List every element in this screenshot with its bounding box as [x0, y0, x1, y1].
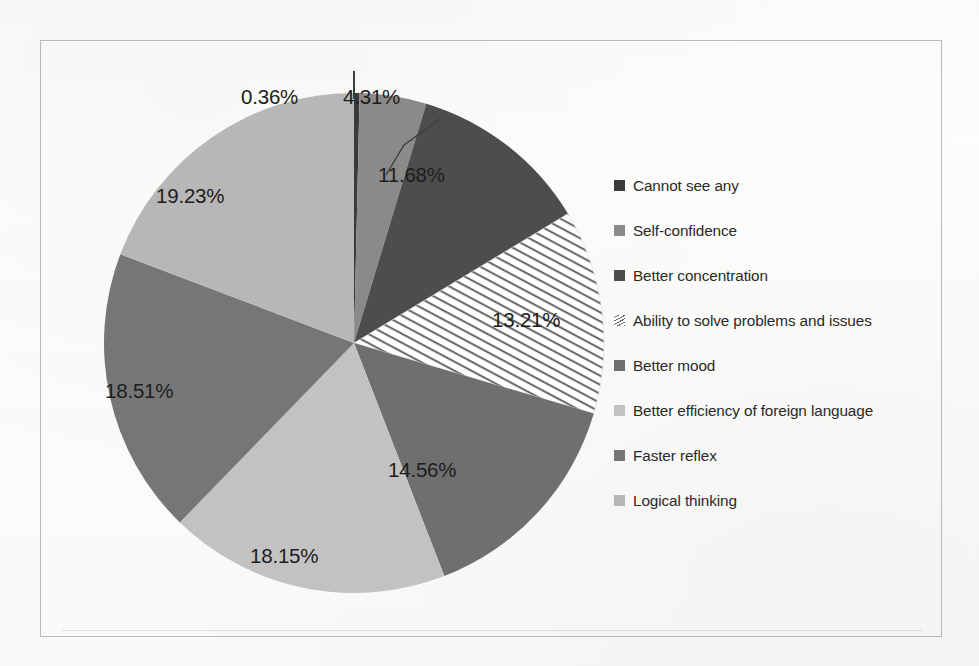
pie-label-better-efficiency-foreign-language: 18.15%: [250, 544, 318, 568]
legend-item-label: Self-confidence: [633, 222, 737, 240]
chart-legend: Cannot see anySelf-confidenceBetter conc…: [614, 163, 944, 523]
pie-chart-svg: Cannot see any — 0.36%Self-confidence — …: [41, 41, 661, 638]
legend-item-label: Better efficiency of foreign language: [633, 402, 873, 420]
pie-label-logical-thinking: 19.23%: [156, 184, 224, 208]
pie-label-cannot-see-any: 0.36%: [241, 85, 298, 109]
legend-item[interactable]: Ability to solve problems and issues: [614, 298, 944, 343]
pie-label-better-concentration: 11.68%: [378, 163, 445, 187]
legend-swatch-icon: [614, 450, 625, 461]
legend-swatch-icon: [614, 405, 625, 416]
pie-label-better-mood: 14.56%: [388, 458, 456, 482]
legend-swatch-icon: [614, 360, 625, 371]
legend-item-label: Faster reflex: [633, 447, 717, 465]
legend-item[interactable]: Better concentration: [614, 253, 944, 298]
legend-item[interactable]: Self-confidence: [614, 208, 944, 253]
legend-swatch-icon: [614, 225, 625, 236]
pie-label-self-confidence: 4.31%: [343, 85, 400, 109]
legend-swatch-icon: [614, 270, 625, 281]
legend-item-label: Logical thinking: [633, 492, 737, 510]
legend-swatch-icon: [614, 180, 625, 191]
legend-item-label: Cannot see any: [633, 177, 739, 195]
scanned-chart-page: Cannot see any — 0.36%Self-confidence — …: [0, 0, 979, 666]
chart-frame: Cannot see any — 0.36%Self-confidence — …: [40, 40, 942, 637]
legend-swatch-icon: [614, 315, 625, 326]
legend-item[interactable]: Better mood: [614, 343, 944, 388]
legend-item[interactable]: Better efficiency of foreign language: [614, 388, 944, 433]
pie-label-ability-to-solve-problems: 13.21%: [492, 308, 560, 332]
pie-slice-group: Cannot see any — 0.36%Self-confidence — …: [104, 93, 604, 593]
legend-item-label: Better concentration: [633, 267, 768, 285]
pie-label-faster-reflex: 18.51%: [105, 379, 173, 403]
legend-swatch-icon: [614, 495, 625, 506]
legend-item-label: Better mood: [633, 357, 715, 375]
legend-item[interactable]: Faster reflex: [614, 433, 944, 478]
pie-chart: Cannot see any — 0.36%Self-confidence — …: [41, 41, 661, 638]
legend-item[interactable]: Logical thinking: [614, 478, 944, 523]
legend-item-label: Ability to solve problems and issues: [633, 312, 872, 330]
legend-item[interactable]: Cannot see any: [614, 163, 944, 208]
